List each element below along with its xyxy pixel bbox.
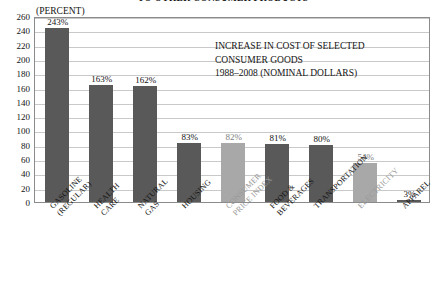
bar-value-label: 82% [225,132,242,142]
bar-value-label: 163% [91,74,112,84]
bar-column[interactable]: 83% [177,18,201,202]
bar-value-label: 81% [269,133,286,143]
y-axis-tick-label: 220 [17,41,31,51]
bar-value-label: 83% [181,132,198,142]
y-axis-tick-label: 40 [21,169,30,179]
y-axis-tick-label: 140 [17,98,31,108]
bar-column[interactable]: 162% [133,18,157,202]
annotation-line-1: INCREASE IN COST OF SELECTED [215,40,365,54]
chart-title-clipped: TO OTHER CONSUMER PRODUCTS [0,0,446,2]
y-axis-tick-label: 80 [21,141,30,151]
bar-value-label: 162% [135,75,156,85]
bar-column[interactable]: 243% [45,18,69,202]
y-axis-tick-label: 160 [17,84,31,94]
y-axis-tick-label: 100 [17,126,31,136]
y-axis-unit-caption: (PERCENT) [36,6,85,16]
annotation-line-2: CONSUMER GOODS [215,54,365,68]
bar-value-label: 80% [313,134,330,144]
y-axis-tick-label: 60 [21,155,30,165]
y-axis-tick-label: 200 [17,55,31,65]
x-axis-labels: GASOLINE(REGULAR)HEALTHCARENATURALGASHOU… [34,204,430,287]
y-axis-tick-label: 20 [21,184,30,194]
y-axis-tick-label: 120 [17,112,31,122]
y-axis: 020406080100120140160180200220240260 [0,17,34,203]
y-axis-tick-label: 180 [17,69,31,79]
chart-annotation: INCREASE IN COST OF SELECTED CONSUMER GO… [215,40,365,81]
bar-value-label: 243% [47,17,68,27]
bar-column[interactable]: 3% [397,18,421,202]
bar[interactable] [133,86,157,202]
annotation-line-3: 1988–2008 (NOMINAL DOLLARS) [215,67,365,81]
bar[interactable] [45,28,69,202]
y-axis-tick-label: 0 [26,198,31,208]
y-axis-tick-label: 260 [17,12,31,22]
y-axis-tick-label: 240 [17,26,31,36]
bar-column[interactable]: 163% [89,18,113,202]
